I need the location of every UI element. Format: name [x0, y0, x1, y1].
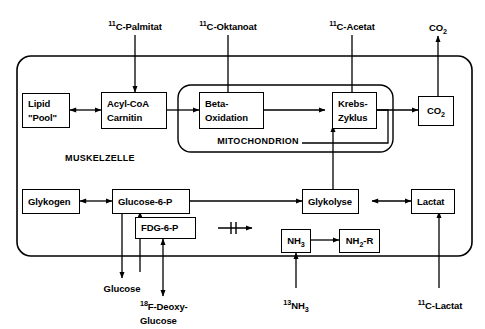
isotope-11: 11: [199, 19, 206, 28]
diagram-line-layer: [0, 0, 485, 329]
metabolism-diagram: MUSKELZELLE MITOCHONDRION 11C-Palmitat 1…: [0, 0, 485, 329]
label-c11-oktanoat: 11C-Oktanoat: [199, 20, 257, 34]
isotope-11: 11: [418, 298, 425, 307]
box-co2-label: CO2: [427, 104, 445, 118]
isotope-11: 11: [108, 19, 115, 28]
box-nh3-label: NH3: [287, 234, 304, 248]
label-co2-output: CO2: [429, 21, 447, 35]
box-glucose-6-p[interactable]: Glucose-6-P: [112, 189, 190, 214]
label-f18-deoxy-glucose: 18F-Deoxy- Glucose: [140, 300, 188, 328]
box-lipid-pool[interactable]: Lipid "Pool": [22, 93, 70, 128]
box-krebs-zyklus-line2: Zyklus: [338, 111, 368, 125]
label-c11-palmitat: 11C-Palmitat: [108, 20, 161, 34]
box-acyl-coa-carnitin[interactable]: Acyl-CoA Carnitin: [101, 92, 167, 129]
box-lactat-label: Lactat: [417, 195, 444, 209]
label-f18-deoxy-glucose-line2: Glucose: [140, 314, 188, 328]
isotope-18: 18: [140, 299, 148, 308]
box-krebs-zyklus[interactable]: Krebs- Zyklus: [332, 92, 377, 129]
subscript-2: 2: [443, 27, 447, 36]
subscript-3: 3: [305, 305, 309, 314]
box-beta-oxidation-line1: Beta-: [205, 97, 228, 111]
subscript-2: 2: [441, 110, 445, 119]
box-glykolyse[interactable]: Glykolyse: [302, 189, 359, 214]
box-lipid-pool-line1: Lipid: [28, 97, 50, 111]
box-lipid-pool-line2: "Pool": [28, 111, 57, 125]
box-glucose-6-p-label: Glucose-6-P: [118, 195, 172, 209]
subscript-2: 2: [359, 240, 363, 249]
box-glykolyse-label: Glykolyse: [308, 195, 352, 209]
box-nh2-r[interactable]: NH2-R: [339, 229, 380, 253]
region-label-mitochondrion: MITOCHONDRION: [217, 136, 299, 146]
box-beta-oxidation[interactable]: Beta- Oxidation: [199, 92, 264, 129]
box-beta-oxidation-line2: Oxidation: [205, 111, 248, 125]
isotope-13: 13: [283, 298, 291, 307]
box-fdg-6-p-label: FDG-6-P: [141, 221, 178, 235]
box-co2[interactable]: CO2: [418, 96, 454, 126]
box-nh2-r-label: NH2-R: [346, 234, 373, 248]
isotope-11: 11: [329, 19, 336, 28]
label-n13-ammonia: 13NH3: [283, 299, 308, 313]
box-krebs-zyklus-line1: Krebs-: [338, 97, 368, 111]
box-glykogen[interactable]: Glykogen: [22, 189, 80, 214]
subscript-3: 3: [301, 240, 305, 249]
box-nh3[interactable]: NH3: [281, 229, 311, 253]
box-fdg-6-p[interactable]: FDG-6-P: [135, 217, 196, 239]
region-label-muskelzelle: MUSKELZELLE: [65, 153, 135, 163]
label-c11-acetat: 11C-Acetat: [329, 20, 375, 34]
box-acyl-coa-line1: Acyl-CoA: [107, 97, 149, 111]
label-glucose: Glucose: [104, 282, 141, 296]
box-lactat[interactable]: Lactat: [411, 189, 455, 214]
label-c11-lactat: 11C-Lactat: [418, 299, 463, 313]
box-glykogen-label: Glykogen: [28, 195, 71, 209]
box-acyl-coa-line2: Carnitin: [107, 111, 142, 125]
label-f18-deoxy-glucose-line1: 18F-Deoxy-: [140, 300, 188, 314]
